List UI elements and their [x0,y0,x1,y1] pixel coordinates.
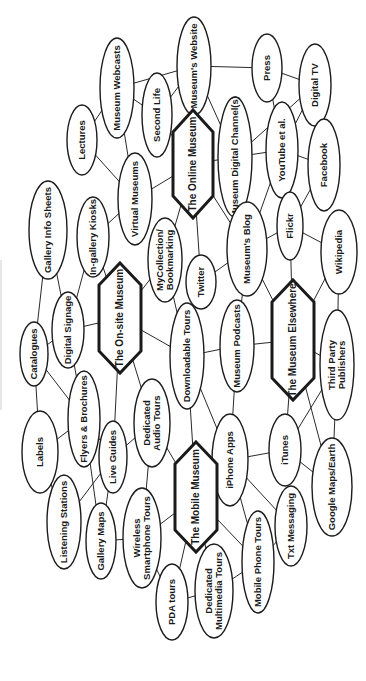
node-thirdparty: Third PartyPublishers [320,310,354,420]
node-youtube: YouTube et al. [266,102,298,198]
node-label: Downloadable Tours [181,310,192,403]
hub-online: The Online Museum [173,110,213,218]
node-googlemaps: Google Maps/Earth [312,438,352,536]
node-press: Press [252,34,282,102]
node-txt: Txt Messaging [275,486,307,566]
node-itunes: iTunes [269,414,301,486]
node-website: Museum's Website [177,17,211,115]
node-label: Txt Messaging [285,493,296,559]
node-label: Google Maps/Earth [326,444,337,531]
node-label: Museum's Blog [241,214,252,284]
node-label: Listening Stations [58,481,69,563]
node-downloadable: Downloadable Tours [170,303,204,409]
node-catalogues: Catalogues [20,322,48,386]
node-label: YouTube et al. [276,118,287,182]
hub-label: The Museum Elsewhere [287,283,298,397]
node-label: Facebook [318,142,329,187]
node-label: Gallery Info Sheets [42,187,53,273]
node-listening: Listening Stations [47,475,81,569]
node-label: In-gallery Kiosks [87,199,98,275]
node-label: Museum Digital Channel(s) [229,96,240,218]
node-label: PDA tours [166,579,177,625]
hub-mobile: The Mobile Museum [175,442,217,552]
node-label: Catalogues [28,328,39,379]
node-label: Twitter [195,266,206,297]
node-facebook: Facebook [308,119,340,211]
hub-elsewhere: The Museum Elsewhere [272,280,314,400]
node-twitter: Twitter [186,255,216,309]
hub-label: The On-site Museum [114,269,125,367]
node-kiosks: In-gallery Kiosks [77,197,109,277]
node-channels: Museum Digital Channel(s) [218,96,252,218]
node-audiotours: DedicatedAudio Tours [134,379,170,467]
node-label: Museum Podcasts [231,304,242,387]
node-label: Second Life [151,88,162,142]
node-label: Digital Signage [62,296,73,365]
node-label: Mobile Phone Tours [252,517,263,607]
node-label: Lectures [76,120,87,160]
node-wikipedia: Wikipedia [321,210,357,294]
node-label: Flickr [284,213,295,239]
node-blog: Museum's Blog [227,202,267,296]
node-label: Third PartyPublishers [325,339,347,390]
node-label: Virtual Museums [129,161,140,237]
node-signage: Digital Signage [52,292,84,368]
node-label: Press [261,55,272,81]
node-secondlife: Second Life [142,73,172,157]
node-label: Museum Webcasts [111,45,122,130]
node-gallerymaps: Gallery Maps [86,503,116,579]
node-liveguides: Live Guides [99,421,127,493]
node-wireless: WirelessSmartphone Tours [123,488,161,588]
node-labels: Labels [22,411,58,493]
node-pda: PDA tours [156,564,188,640]
node-label: DedicatedAudio Tours [140,395,162,450]
node-mycollection: MyCollection/Bookmarking [148,218,182,302]
node-infosheets: Gallery Info Sheets [29,181,67,279]
museum-channels-diagram: Museum WebcastsSecond LifeMuseum's Websi… [0,0,366,681]
node-label: Museum's Website [188,24,199,109]
node-virtual: Virtual Museums [118,153,152,245]
node-label: Gallery Maps [95,511,106,570]
hub-label: The Online Museum [187,116,198,211]
node-label: Labels [34,437,45,467]
node-label: Digital TV [309,62,320,106]
node-flyers: Flyers & Brochures [68,371,100,467]
node-webcasts: Museum Webcasts [100,38,134,138]
node-podcasts: Museum Podcasts [220,300,254,392]
node-digitaltv: Digital TV [299,44,331,126]
node-label: iTunes [279,435,290,465]
node-label: Flyers & Brochures [78,375,89,463]
node-label: Live Guides [107,430,118,484]
node-label: Wikipedia [333,229,344,274]
node-label: MyCollection/Bookmarking [153,229,175,291]
node-label: iPhone Apps [224,431,235,489]
node-lectures: Lectures [67,105,97,175]
hub-label: The Mobile Museum [190,449,201,545]
hub-onsite: The On-site Museum [99,263,141,373]
node-mobiletours: Mobile Phone Tours [242,511,274,613]
node-flickr: Flickr [277,192,303,260]
node-multimedia: DedicatedMultimedia Tours [195,544,233,638]
